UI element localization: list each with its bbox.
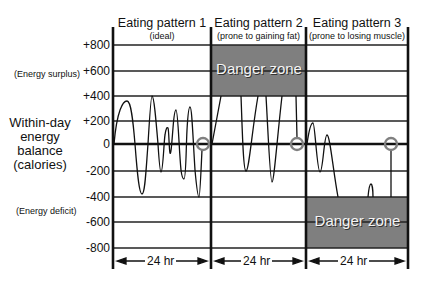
pattern-1-curve — [114, 96, 202, 197]
pattern-3-curve — [307, 123, 391, 197]
y-tick: +400 — [68, 90, 110, 102]
pattern-3-title: Eating pattern 3 — [306, 16, 408, 30]
y-axis-title: Within-day energy balance (calories) — [2, 116, 78, 172]
y-tick: -800 — [68, 242, 110, 254]
energy-deficit-label: (Energy deficit) — [16, 206, 77, 216]
danger-zone-label-surplus: Danger zone — [212, 60, 306, 77]
danger-zone-label-deficit: Danger zone — [307, 212, 408, 229]
y-tick: +800 — [68, 39, 110, 51]
pattern-2-duration: 24 hr — [241, 254, 272, 268]
pattern-3-subtitle: (prone to losing muscle) — [306, 31, 408, 41]
y-tick: -400 — [68, 191, 110, 203]
energy-surplus-label: (Energy surplus) — [14, 69, 80, 79]
pattern-1-duration: 24 hr — [145, 254, 176, 268]
pattern-2-title: Eating pattern 2 — [211, 16, 306, 30]
y-tick: -600 — [68, 216, 110, 228]
pattern-1-subtitle: (ideal) — [113, 31, 211, 41]
pattern-2-subtitle: (prone to gaining fat) — [211, 31, 306, 41]
pattern-2-curve — [212, 96, 297, 182]
pattern-3-duration: 24 hr — [338, 254, 369, 268]
pattern-1-title: Eating pattern 1 — [113, 16, 211, 30]
